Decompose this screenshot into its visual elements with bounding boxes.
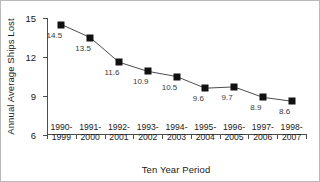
x-category-label: 1995-2004	[194, 122, 216, 142]
x-category-label-line: 2007	[281, 132, 303, 142]
data-point-label: 9.7	[221, 93, 232, 102]
x-category-label-line: 1992-	[108, 122, 130, 132]
y-axis-title-text: Annual Average Ships Lost	[5, 18, 16, 134]
data-point-marker	[259, 94, 266, 101]
x-category-label-line: 2004	[194, 132, 216, 142]
x-category-label-line: 2002	[137, 132, 159, 142]
x-category-label: 1993-2002	[137, 122, 159, 142]
data-point-marker	[144, 68, 151, 75]
data-point-marker	[231, 83, 238, 90]
x-category-label-line: 1993-	[137, 122, 159, 132]
data-point-label: 8.9	[250, 103, 261, 112]
x-category-label-line: 1995-	[194, 122, 216, 132]
x-category-label-line: 1994-	[166, 122, 188, 132]
x-category-label-line: 1990-	[50, 122, 72, 132]
y-tick-label: 9	[31, 91, 36, 102]
x-category-label-line: 1997-	[252, 122, 274, 132]
x-category-label-line: 1998-	[281, 122, 303, 132]
y-tick-label: 6	[31, 130, 36, 141]
data-point-marker	[115, 59, 122, 66]
x-category-label: 1990-1999	[50, 122, 72, 142]
data-point-marker	[58, 21, 65, 28]
x-category-label-line: 2001	[108, 132, 130, 142]
x-category-label: 1997-2006	[252, 122, 274, 142]
data-point-label: 8.6	[279, 107, 290, 116]
data-point-label: 14.5	[47, 31, 63, 40]
x-category-label: 1994-2003	[166, 122, 188, 142]
x-category-label: 1998-2007	[281, 122, 303, 142]
x-category-label-line: 2000	[79, 132, 101, 142]
x-category-label: 1992-2001	[108, 122, 130, 142]
data-point-marker	[87, 34, 94, 41]
x-category-label: 1996-2005	[223, 122, 245, 142]
x-category-label-line: 1999	[50, 132, 72, 142]
chart-figure: Annual Average Ships Lost 691215 14.513.…	[0, 0, 320, 182]
plot-area: 691215 14.513.511.610.910.59.69.78.98.6	[47, 18, 306, 135]
data-point-label: 9.6	[193, 94, 204, 103]
x-axis-title: Ten Year Period	[41, 164, 311, 175]
x-category-label-line: 1991-	[79, 122, 101, 132]
y-tick-label: 12	[25, 52, 36, 63]
data-point-label: 11.6	[104, 68, 119, 77]
x-category-label-line: 1996-	[223, 122, 245, 132]
x-category-label-line: 2003	[166, 132, 188, 142]
data-point-marker	[202, 85, 209, 92]
x-category-label: 1991-2000	[79, 122, 101, 142]
y-tick-label: 15	[25, 13, 36, 24]
data-point-marker	[173, 73, 180, 80]
data-point-marker	[288, 98, 295, 105]
x-tick	[306, 134, 307, 139]
data-point-label: 10.9	[133, 77, 149, 86]
x-category-label-line: 2006	[252, 132, 274, 142]
data-point-label: 10.5	[162, 83, 178, 92]
x-category-label-line: 2005	[223, 132, 245, 142]
y-axis-title: Annual Average Ships Lost	[1, 1, 19, 151]
data-point-label: 13.5	[75, 44, 91, 53]
